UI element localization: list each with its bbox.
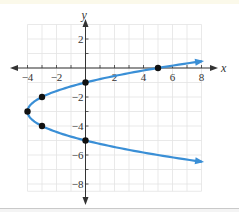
x-tick-label: −2: [51, 71, 63, 83]
grid: [28, 25, 202, 192]
bottom-strip: [0, 209, 239, 212]
x-axis-left-arrow-icon: [10, 65, 18, 71]
x-tick-label: 6: [170, 71, 176, 83]
data-point: [39, 123, 45, 129]
y-tick-label: −6: [72, 149, 84, 161]
data-point: [24, 108, 30, 114]
y-tick-label: −2: [72, 91, 84, 103]
y-tick-label: −8: [72, 178, 84, 190]
x-axis-label: x: [220, 61, 227, 75]
data-point: [82, 79, 88, 85]
y-tick-label: −4: [72, 120, 84, 132]
data-point: [155, 65, 161, 71]
y-axis-label: y: [81, 8, 88, 22]
x-tick-label: 4: [141, 71, 147, 83]
data-point: [82, 137, 88, 143]
parabola-chart: −4−224682−2−4−6−8 x y: [0, 0, 239, 212]
lower-branch-arrow-icon: [195, 157, 204, 164]
y-axis-down-arrow-icon: [83, 197, 89, 205]
x-tick-label: 8: [199, 71, 205, 83]
y-tick-label: 2: [78, 33, 84, 45]
x-tick-label: −4: [22, 71, 34, 83]
x-axis-right-arrow-icon: [210, 65, 218, 71]
data-point: [39, 94, 45, 100]
upper-branch-arrow-icon: [195, 59, 204, 66]
